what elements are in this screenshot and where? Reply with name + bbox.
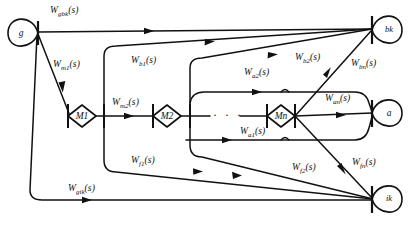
node-bk-label: bk <box>385 24 393 34</box>
node-ik[interactable]: ik <box>372 186 402 213</box>
node-ik-label: ik <box>386 193 392 203</box>
edge-label-w-m1: Wm1(s) <box>53 60 80 72</box>
graph-canvas: g bk a ik M1 <box>0 0 418 225</box>
arrowhead-w-a2 <box>252 89 262 95</box>
node-mn[interactable]: Mn <box>267 105 295 127</box>
arrowhead-w-f1 <box>193 168 203 175</box>
edge-label-w-gbk: Wgbk(s) <box>50 6 78 18</box>
arrowhead-w-gbk <box>144 28 154 34</box>
edge-label-w-gik: Wgik(s) <box>68 184 95 196</box>
edge-path-w-m1 <box>38 34 70 116</box>
edge-path-w-gbk <box>38 29 372 32</box>
edge-path-w-f2 <box>190 116 373 199</box>
edge-path-w-an <box>295 113 372 116</box>
signal-flow-graph-figure: g bk a ik M1 <box>0 0 418 225</box>
edge-label-w-b1: Wb1(s) <box>131 56 156 68</box>
edge-label-w-m2: Wm2(s) <box>112 98 139 110</box>
edge-label-w-fn: Wfn(s) <box>352 158 376 170</box>
edge-label-w-f1: Wf1(s) <box>131 156 155 168</box>
arrowhead-w-a1 <box>222 137 232 143</box>
edge-label-w-b2: Wb2(s) <box>295 53 320 65</box>
node-g[interactable]: g <box>8 19 38 46</box>
arrowhead-w-an <box>336 112 346 118</box>
arrowhead-w-b2 <box>268 52 278 58</box>
arrowhead-w-f2 <box>232 172 242 179</box>
node-m2-label: M2 <box>160 111 174 121</box>
edge-label-w-f2: Wf2(s) <box>292 163 316 175</box>
node-a[interactable]: a <box>372 100 402 127</box>
node-m1-label: M1 <box>75 111 89 121</box>
node-m1[interactable]: M1 <box>68 105 96 127</box>
edge-label-w-a1: Wa1(s) <box>240 127 265 139</box>
arrowhead-w-m2 <box>124 113 134 119</box>
node-g-label: g <box>19 28 24 38</box>
node-m2[interactable]: M2 <box>153 105 181 127</box>
arrowhead-w-gik <box>82 197 92 203</box>
node-mn-label: Mn <box>274 111 288 121</box>
edge-path-w-fn <box>295 116 372 198</box>
chain-ellipsis: · · · <box>213 108 244 123</box>
node-bk[interactable]: bk <box>372 16 402 44</box>
edge-label-w-bn: Wbn(s) <box>351 59 376 71</box>
node-a-label: a <box>387 108 392 118</box>
edge-label-w-an: Wan(s) <box>325 94 350 106</box>
edge-label-w-a2: Wa2(s) <box>244 68 269 80</box>
